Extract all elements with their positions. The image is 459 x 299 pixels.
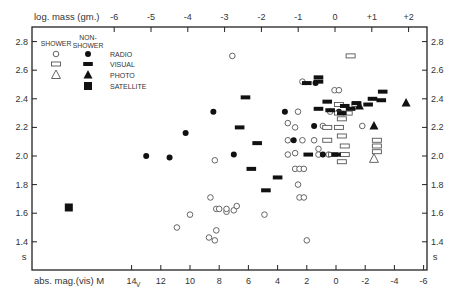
series-radio-non-shower- <box>143 80 342 160</box>
data-point <box>331 153 341 157</box>
top-tick-label: 0 <box>332 12 337 22</box>
legend-header-shower: SHOWER <box>41 40 72 47</box>
data-point <box>363 103 373 107</box>
data-point <box>378 90 388 94</box>
data-point <box>302 81 312 85</box>
right-tick-label: 1.4 <box>431 237 444 247</box>
data-point <box>291 137 297 143</box>
right-tick-label: 2.6 <box>431 65 444 75</box>
open-bar-icon <box>372 150 381 154</box>
legend-nonshower-marker <box>83 62 93 66</box>
data-point <box>224 206 230 212</box>
bottom-tick-label: -6 <box>420 276 428 286</box>
filled-bar-icon <box>325 108 335 112</box>
open-bar-icon <box>337 160 346 164</box>
top-tick-label: +2 <box>403 12 413 22</box>
filled-circle-icon <box>311 123 317 129</box>
open-circle-icon <box>336 87 342 93</box>
filled-circle-icon <box>282 109 288 115</box>
data-point <box>369 154 378 163</box>
right-tick-label: 1.6 <box>431 208 444 218</box>
left-tick-label: 1.6 <box>15 208 28 218</box>
filled-square-icon <box>84 82 92 90</box>
legend-shower-marker <box>53 51 59 57</box>
legend-header-non-shower: NON- <box>79 34 96 41</box>
right-tick-label: 2.8 <box>431 37 444 47</box>
data-point <box>231 152 237 158</box>
filled-triangle-icon <box>369 121 378 130</box>
right-axis-s: 2.82.62.42.22.01.81.61.4s <box>422 37 444 262</box>
bottom-tick-label: 6 <box>246 276 251 286</box>
filled-bar-icon <box>235 125 245 129</box>
data-point <box>300 137 306 143</box>
y-axis-label: s <box>22 251 27 262</box>
open-bar-icon <box>340 153 349 157</box>
series-visual-non-shower- <box>235 75 388 192</box>
open-circle-icon <box>311 137 317 143</box>
open-bar-icon <box>372 144 381 148</box>
filled-bar-icon <box>340 104 350 108</box>
legend-header-non-shower: SHOWER <box>73 42 104 49</box>
left-tick-label: 2.2 <box>15 122 28 132</box>
data-point <box>210 109 216 115</box>
data-point <box>311 123 317 129</box>
data-point <box>213 228 219 234</box>
open-circle-icon <box>208 195 214 201</box>
open-circle-icon <box>224 206 230 212</box>
filled-bar-icon <box>376 98 386 102</box>
filled-triangle-icon <box>402 98 411 107</box>
filled-circle-icon <box>167 154 173 160</box>
bottom-tick-label: 12 <box>156 276 166 286</box>
data-point <box>282 109 288 115</box>
data-point <box>359 123 365 129</box>
data-point <box>295 182 301 188</box>
data-point <box>323 125 332 129</box>
filled-bar-icon <box>261 188 271 192</box>
bottom-tick-label: -2 <box>361 276 369 286</box>
legend-nonshower-marker <box>84 70 93 79</box>
top-tick-label: +1 <box>367 12 377 22</box>
data-point <box>340 144 349 148</box>
filled-bar-icon <box>322 100 332 104</box>
open-bar-icon <box>337 117 346 121</box>
open-circle-icon <box>262 212 268 218</box>
data-point <box>262 212 268 218</box>
data-point <box>167 154 173 160</box>
top-tick-label: -6 <box>110 12 118 22</box>
open-circle-icon <box>292 150 298 156</box>
open-triangle-icon <box>52 70 61 79</box>
data-point <box>241 95 251 99</box>
data-point <box>376 98 386 102</box>
filled-bar-icon <box>378 90 388 94</box>
bottom-tick-label: 10 <box>185 276 195 286</box>
data-point <box>187 212 193 218</box>
open-circle-icon <box>285 137 291 143</box>
data-points <box>65 53 411 243</box>
filled-bar-icon <box>247 167 257 171</box>
data-point <box>252 141 262 145</box>
filled-square-icon <box>65 203 73 211</box>
scatter-chart: log. mass (gm.)-6-5-4-3-2-10+1+2 abs. ma… <box>0 0 459 299</box>
bottom-axis-abs-mag: abs. mag.(vis) MV14121086420-2-4-6 <box>34 265 428 288</box>
series-photo-shower- <box>369 154 378 163</box>
data-point <box>183 130 189 136</box>
bottom-tick-label: -4 <box>390 276 398 286</box>
data-point <box>337 111 347 115</box>
filled-circle-icon <box>291 137 297 143</box>
data-point <box>261 188 271 192</box>
filled-bar-icon <box>302 81 312 85</box>
data-point <box>340 153 349 157</box>
filled-circle-icon <box>320 152 326 158</box>
data-point <box>65 203 73 211</box>
data-point <box>325 108 335 112</box>
data-point <box>303 153 313 157</box>
data-point <box>346 54 355 58</box>
data-point <box>230 53 236 59</box>
data-point <box>285 137 291 143</box>
filled-circle-icon <box>143 153 149 159</box>
left-tick-label: 1.4 <box>15 237 28 247</box>
legend-label-photo: PHOTO <box>110 72 135 79</box>
legend-label-satellite: SATELLITE <box>110 83 147 90</box>
data-point <box>402 98 411 107</box>
top-tick-label: -4 <box>184 12 192 22</box>
